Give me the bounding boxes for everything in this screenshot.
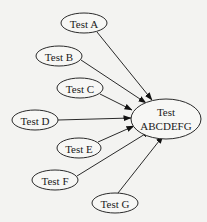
node-label: Test D (21, 115, 50, 127)
node-test-c[interactable]: Test C (57, 78, 103, 98)
edge-a-to-t (97, 32, 152, 100)
node-test-abcdefg[interactable]: Test ABCDEFG (131, 99, 201, 139)
edge-g-to-t (118, 136, 163, 193)
node-label: Test B (45, 51, 73, 63)
node-test-abcdefg-label-line2: ABCDEFG (140, 120, 191, 132)
node-test-e[interactable]: Test E (57, 138, 101, 158)
node-test-abcdefg-shape (131, 99, 201, 139)
node-label: Test G (101, 198, 130, 210)
node-test-g[interactable]: Test G (92, 193, 138, 213)
node-test-b[interactable]: Test B (36, 46, 82, 66)
edge-d-to-t (58, 118, 131, 120)
node-label: Test C (66, 83, 94, 95)
node-test-a[interactable]: Test A (61, 13, 107, 33)
node-label: Test A (70, 18, 98, 30)
node-test-f[interactable]: Test F (32, 170, 78, 190)
node-test-d[interactable]: Test D (12, 110, 58, 130)
directed-graph-canvas: Test ATest BTest CTest DTest ETest FTest… (0, 0, 207, 222)
node-label: Test E (65, 143, 93, 155)
edge-e-to-t (98, 126, 134, 142)
edge-c-to-t (100, 94, 132, 110)
node-test-abcdefg-label-line1: Test (157, 106, 175, 118)
node-label: Test F (41, 175, 68, 187)
nodes-group: Test ATest BTest CTest DTest ETest FTest… (12, 13, 138, 213)
